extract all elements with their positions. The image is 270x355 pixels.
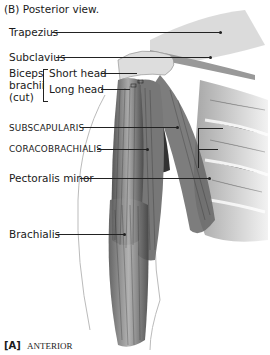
leader-brachialis	[56, 234, 124, 235]
biceps-bracket	[43, 69, 48, 102]
label-short-head: Short head	[49, 67, 107, 79]
caption-anterior-text: ANTERIOR	[27, 341, 73, 351]
label-coracobrachialis: CORACOBRACHIALIS	[9, 143, 102, 155]
leader-coracobrachialis	[97, 149, 147, 150]
leader-subscapularis-endpoint	[176, 126, 179, 129]
leader-pectoralis-minor	[80, 178, 210, 179]
label-biceps-brachii-line2: brachii	[9, 79, 45, 91]
leader-subclavius-endpoint	[209, 56, 212, 59]
caption-anterior: [A] ANTERIOR	[4, 340, 73, 351]
leader-subscapularis-right-bottom	[198, 149, 218, 150]
leader-subscapularis-right-vertical	[198, 128, 199, 168]
label-brachialis: Brachialis	[9, 228, 60, 240]
leader-subscapularis	[80, 127, 177, 128]
label-biceps-brachii-line1: Biceps	[9, 67, 44, 79]
label-biceps-brachii-line3: (cut)	[9, 91, 34, 103]
leader-pectoralis-minor-endpoint	[208, 177, 211, 180]
label-subscapularis: SUBSCAPULARIS	[9, 122, 84, 134]
label-trapezius: Trapezius	[9, 26, 58, 38]
leader-trapezius	[52, 32, 222, 33]
leader-coracobrachialis-endpoint	[146, 148, 149, 151]
label-long-head: Long head	[49, 83, 104, 95]
caption-posterior-view: (B) Posterior view.	[4, 3, 99, 15]
caption-anterior-letter: [A]	[4, 340, 21, 351]
leader-trapezius-endpoint	[219, 31, 222, 34]
leader-brachialis-endpoint	[123, 233, 126, 236]
leader-subscapularis-right-top	[198, 128, 223, 129]
leader-long-head	[101, 89, 130, 90]
leader-short-head	[101, 73, 137, 74]
leader-subclavius	[56, 57, 211, 58]
